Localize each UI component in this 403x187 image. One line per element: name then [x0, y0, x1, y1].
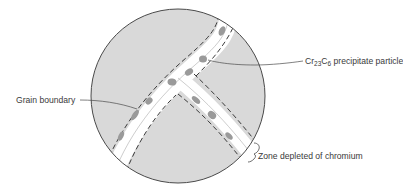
precipitate-label: Cr23C6 precipitate particle [305, 57, 403, 66]
precipitate-formula-prefix: Cr [305, 56, 314, 66]
precipitate-formula-suffix: precipitate particle [331, 56, 403, 66]
depleted-zone-label: Zone depleted of chromium [258, 152, 363, 161]
grain-boundary-label: Grain boundary [16, 96, 75, 105]
